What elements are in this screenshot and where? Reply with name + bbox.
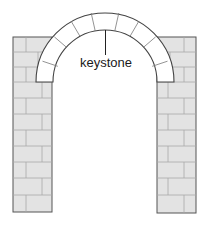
keystone-label: keystone (80, 55, 132, 70)
keystone-callout: keystone (80, 30, 132, 70)
arch-diagram: keystone (0, 0, 206, 228)
